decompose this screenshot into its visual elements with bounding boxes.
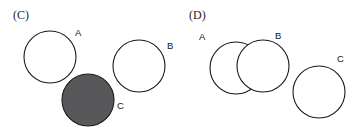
circle-label-b: B (167, 41, 173, 51)
circle-c-shaded (62, 74, 114, 126)
circle-label-b: B (275, 31, 281, 41)
circle-label-a: A (75, 28, 81, 38)
circle-label-a: A (199, 32, 205, 42)
circle-label-c: C (117, 101, 124, 111)
circle-b-outline (237, 40, 289, 92)
circle-b-outline (113, 40, 165, 92)
circle-label-c: C (337, 54, 344, 64)
venn-diagram-figure: (C) A B C (D) A B (0, 0, 359, 132)
panel-d: (D) A B C (180, 0, 359, 132)
panel-c: (C) A B C (0, 0, 180, 132)
panel-d-circles (180, 0, 359, 132)
circle-c-outline (293, 66, 345, 118)
circle-a-outline (24, 31, 76, 83)
panel-c-circles (0, 0, 180, 132)
